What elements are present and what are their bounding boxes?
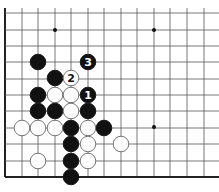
go-board-svg: 321	[0, 0, 219, 192]
star-point	[152, 28, 156, 32]
white-stone	[47, 120, 63, 136]
black-stone	[63, 169, 79, 185]
white-stone	[113, 136, 129, 152]
black-stone	[30, 54, 46, 70]
white-stone	[80, 153, 96, 169]
black-stone	[30, 87, 46, 103]
move-number-label: 2	[67, 72, 75, 85]
black-stone	[80, 103, 96, 119]
white-stone	[63, 103, 79, 119]
black-stone	[47, 103, 63, 119]
black-stone	[96, 120, 112, 136]
move-number-label: 1	[84, 89, 92, 102]
black-stone	[30, 103, 46, 119]
black-stone	[63, 136, 79, 152]
white-stone	[63, 87, 79, 103]
black-stone	[63, 153, 79, 169]
white-stone	[30, 120, 46, 136]
white-stone	[80, 136, 96, 152]
white-stone	[47, 87, 63, 103]
star-point	[152, 125, 156, 129]
star-point	[53, 28, 57, 32]
move-number-label: 3	[84, 56, 92, 69]
black-stone	[63, 120, 79, 136]
white-stone	[80, 120, 96, 136]
white-stone	[30, 153, 46, 169]
go-board-diagram: 321	[0, 0, 219, 192]
black-stone	[47, 70, 63, 86]
white-stone	[14, 120, 30, 136]
